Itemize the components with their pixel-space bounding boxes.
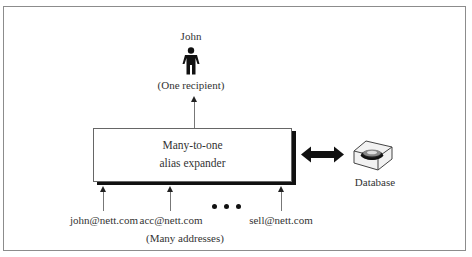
- address-label: john@nett.com: [68, 214, 140, 226]
- bidirectional-arrow-icon: [301, 146, 344, 163]
- cropped-figure-caption: [0, 0, 472, 4]
- address-arrow-2-head: [167, 186, 173, 192]
- database-label: Database: [350, 176, 400, 188]
- address-label: acc@nett.com: [138, 214, 204, 226]
- expander-label-line2: alias expander: [94, 157, 291, 169]
- alias-expander-box: Many-to-one alias expander: [93, 128, 292, 182]
- address-arrow-2-shaft: [170, 190, 171, 211]
- database-icon: [352, 139, 394, 171]
- address-arrow-1-head: [100, 186, 106, 192]
- ellipsis-dot-2: [224, 204, 229, 209]
- address-arrow-1-shaft: [103, 190, 104, 211]
- arrow-to-recipient-head: [191, 96, 197, 102]
- addresses-caption: (Many addresses): [140, 232, 230, 244]
- recipient-caption: (One recipient): [151, 79, 231, 91]
- address-arrow-3-head: [278, 186, 284, 192]
- person-icon: [182, 47, 200, 75]
- recipient-name: John: [174, 30, 208, 42]
- ellipsis-dot-1: [212, 204, 217, 209]
- address-arrow-3-shaft: [281, 190, 282, 211]
- ellipsis-dot-3: [236, 204, 241, 209]
- arrow-to-recipient-shaft: [194, 99, 195, 128]
- expander-label-line1: Many-to-one: [94, 139, 291, 151]
- address-label: sell@nett.com: [246, 214, 316, 226]
